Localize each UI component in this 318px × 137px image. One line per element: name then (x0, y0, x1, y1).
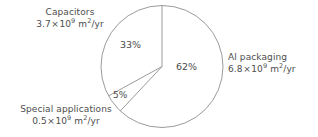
capacitors-exponent: 9 (71, 17, 75, 25)
label-special-applications-value: 0.5×109 m2/yr (4, 116, 128, 128)
capacitors-unit-tail: /yr (91, 19, 103, 29)
label-special-applications: Special applications 0.5×109 m2/yr (4, 104, 128, 127)
label-capacitors-name: Capacitors (18, 7, 122, 19)
slice-percent-al-packaging: 62% (176, 61, 197, 72)
capacitors-unit: m (78, 19, 87, 29)
al-packaging-exponent: 9 (263, 62, 267, 70)
special-base: 10 (55, 116, 67, 126)
slice-percent-capacitors: 33% (120, 39, 141, 50)
special-value-prefix: 0.5 (32, 116, 47, 126)
al-packaging-times-sign: × (243, 64, 252, 74)
label-al-packaging: Al packaging 6.8×109 m2/yr (228, 52, 316, 75)
label-al-packaging-name: Al packaging (228, 52, 316, 64)
capacitors-base: 10 (59, 19, 71, 29)
slice-percent-special-applications: 5% (113, 90, 127, 100)
label-special-applications-name: Special applications (4, 104, 128, 116)
capacitors-value-prefix: 3.7 (36, 19, 51, 29)
label-capacitors-value: 3.7×109 m2/yr (18, 19, 122, 31)
special-exponent: 9 (67, 114, 71, 122)
special-unit-tail: /yr (87, 116, 99, 126)
al-packaging-base: 10 (251, 64, 263, 74)
pie-chart-figure: Capacitors 3.7×109 m2/yr Al packaging 6.… (0, 0, 318, 137)
al-packaging-unit-tail: /yr (283, 64, 295, 74)
label-capacitors: Capacitors 3.7×109 m2/yr (18, 7, 122, 30)
label-al-packaging-value: 6.8×109 m2/yr (228, 64, 316, 76)
al-packaging-value-prefix: 6.8 (228, 64, 243, 74)
al-packaging-unit: m (270, 64, 279, 74)
special-unit: m (74, 116, 83, 126)
